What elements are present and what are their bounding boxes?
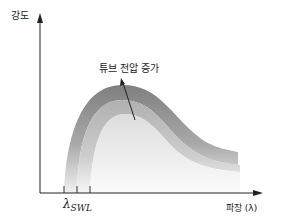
y-axis-arrow-icon bbox=[37, 13, 43, 23]
lambda-subscript: SWL bbox=[71, 203, 92, 213]
arrowhead-icon bbox=[120, 78, 125, 86]
x-axis-arrow-icon bbox=[253, 190, 263, 196]
x-axis-label: 파장 (λ) bbox=[226, 204, 257, 213]
lambda-symbol: λ bbox=[63, 197, 71, 211]
spectrum-plot bbox=[0, 0, 281, 223]
y-axis-label: 강도 bbox=[11, 11, 29, 21]
spectrum-diagram: 강도 튜브 전압 증가 파장 (λ) λSWL bbox=[0, 0, 281, 223]
annotation-label: 튜브 전압 증가 bbox=[99, 64, 159, 74]
lambda-swl-label: λSWL bbox=[63, 198, 92, 213]
